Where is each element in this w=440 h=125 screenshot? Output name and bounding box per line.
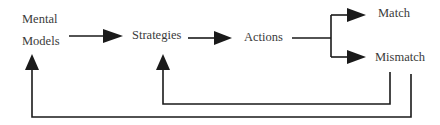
arrowhead-to-actions <box>214 31 232 45</box>
arrowhead-to-strategies <box>103 29 123 43</box>
node-actions: Actions <box>244 31 283 44</box>
node-match: Match <box>378 7 410 20</box>
arrowhead-feedback-to-strategies <box>156 54 170 70</box>
node-mental-models-line2: Models <box>22 35 60 48</box>
feedback-outer-line <box>32 68 411 117</box>
node-mismatch: Mismatch <box>375 51 425 64</box>
diagram-canvas <box>0 0 440 125</box>
feedback-diagram: Mental Models Strategies Actions Match M… <box>0 0 440 125</box>
node-mental-models-line1: Mental <box>22 13 57 26</box>
arrowhead-to-mismatch <box>347 50 366 64</box>
feedback-inner-line <box>163 68 390 104</box>
node-strategies: Strategies <box>132 29 181 42</box>
arrowhead-feedback-to-mental-models <box>25 54 39 70</box>
arrowhead-to-match <box>347 8 366 22</box>
